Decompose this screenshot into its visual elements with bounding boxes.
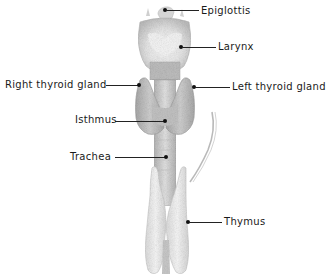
isthmus-pointer-dot [163, 119, 167, 123]
isthmus-label: Isthmus [75, 114, 117, 126]
epiglottis-leader-line [166, 10, 199, 11]
trachea-leader-line [115, 157, 165, 158]
isthmus-leader-line [115, 121, 164, 122]
right-thyroid-gland-leader-line [106, 85, 138, 86]
larynx-shape [138, 18, 191, 80]
right-thyroid-gland-pointer-dot [137, 83, 141, 87]
thymus-label: Thymus [224, 216, 265, 228]
larynx-leader-line [182, 47, 216, 48]
larynx-label: Larynx [218, 41, 254, 53]
anatomy-diagram: Epiglottis Larynx Right thyroid gland Le… [0, 0, 328, 280]
left-thyroid-gland-label: Left thyroid gland [232, 81, 326, 93]
epiglottis-label: Epiglottis [201, 5, 251, 17]
left-thyroid-gland-leader-line [195, 87, 230, 88]
trachea-label: Trachea [70, 151, 111, 163]
vessel-shape [190, 112, 216, 182]
trachea-pointer-dot [164, 155, 168, 159]
thymus-leader-line [189, 222, 222, 223]
organ-illustration [0, 0, 328, 280]
right-thyroid-gland-label: Right thyroid gland [5, 79, 107, 91]
